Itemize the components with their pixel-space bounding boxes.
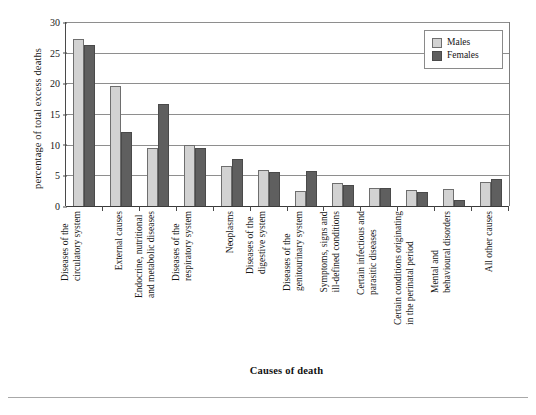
bar-females[interactable] — [343, 185, 354, 206]
x-category-label: Diseases of therespiratory system — [171, 211, 194, 281]
y-tick-label-10: 10 — [50, 139, 66, 150]
x-category-label: Neoplasms — [225, 211, 237, 253]
x-category-label: Diseases of thegenitourinary system — [282, 211, 305, 291]
x-category-label-line: digestive system — [257, 211, 269, 274]
y-tick-label-30: 30 — [50, 17, 66, 28]
bar-females[interactable] — [454, 200, 465, 206]
bar-females[interactable] — [158, 104, 169, 206]
x-category: Diseases of thecirculatory system — [65, 211, 102, 361]
bar-males[interactable] — [73, 39, 84, 206]
legend: Males Females — [424, 30, 503, 69]
bar-males[interactable] — [480, 182, 491, 206]
bar-group — [140, 22, 177, 206]
x-category: Diseases of thedigestive system — [250, 211, 287, 361]
bar-females[interactable] — [121, 132, 132, 206]
x-tick-mark — [508, 206, 509, 211]
bar-group — [103, 22, 140, 206]
x-category-label-line: Certain infectious and — [356, 211, 368, 295]
y-tick-label-25: 25 — [50, 47, 66, 58]
bar-males[interactable] — [443, 189, 454, 206]
chart-figure: percentage of total excess deaths 302520… — [0, 0, 536, 415]
x-category-label-line: circulatory system — [72, 211, 84, 281]
bar-females[interactable] — [195, 148, 206, 206]
x-category-label-line: Certain conditions originating — [393, 211, 405, 325]
x-category-label-line: respiratory system — [183, 211, 195, 281]
x-category-label: Diseases of thecirculatory system — [60, 211, 83, 281]
x-axis-category-labels: Diseases of thecirculatory systemExterna… — [65, 211, 508, 361]
x-category-label-line: Endocrine, nutritional — [134, 211, 146, 298]
x-category: Symptoms, signs andill-defined condition… — [323, 211, 360, 361]
x-category-label: Certain infectious andparasitic diseases — [356, 211, 379, 295]
bar-males[interactable] — [332, 183, 343, 206]
bar-group — [177, 22, 214, 206]
bar-females[interactable] — [232, 159, 243, 206]
x-category: Certain infectious andparasitic diseases — [360, 211, 397, 361]
legend-label-males: Males — [447, 36, 470, 49]
legend-item-males: Males — [432, 36, 496, 49]
x-category-label-line: in the perinatal period — [404, 211, 416, 325]
x-axis-title: Causes of death — [65, 365, 508, 376]
bottom-divider — [8, 397, 528, 398]
bar-group — [214, 22, 251, 206]
x-category-label-line: ill-defined conditions — [330, 211, 342, 293]
y-tick-label-0: 0 — [55, 201, 66, 212]
x-category-label-line: Diseases of the — [60, 211, 72, 281]
x-category: Diseases of thegenitourinary system — [287, 211, 324, 361]
legend-label-females: Females — [447, 49, 479, 62]
y-axis-title: percentage of total excess deaths — [32, 4, 43, 234]
bar-group — [288, 22, 325, 206]
x-category: Certain conditions originatingin the per… — [397, 211, 434, 361]
x-category-label: Symptoms, signs andill-defined condition… — [319, 211, 342, 293]
legend-swatch-males-icon — [432, 38, 442, 48]
x-category-label-line: and metabolic diseases — [146, 211, 158, 298]
legend-swatch-females-icon — [432, 51, 442, 61]
x-category-label-line: Neoplasms — [225, 211, 237, 253]
x-category-label-line: Diseases of the — [171, 211, 183, 281]
y-tick-label-20: 20 — [50, 78, 66, 89]
bar-group — [324, 22, 361, 206]
x-category-label-line: behavioural disorders — [441, 211, 453, 293]
bar-females[interactable] — [417, 192, 428, 206]
x-category-label-line: Diseases of the — [282, 211, 294, 291]
x-category-label-line: parasitic diseases — [367, 211, 379, 295]
x-category-label: Certain conditions originatingin the per… — [393, 211, 416, 325]
x-category-label-line: genitourinary system — [293, 211, 305, 291]
bar-females[interactable] — [380, 188, 391, 206]
bar-males[interactable] — [147, 148, 158, 206]
legend-item-females: Females — [432, 49, 496, 62]
bar-females[interactable] — [491, 179, 502, 206]
bar-group — [66, 22, 103, 206]
bar-males[interactable] — [221, 166, 232, 206]
bar-males[interactable] — [110, 86, 121, 206]
x-category-label: Diseases of thedigestive system — [245, 211, 268, 274]
bar-males[interactable] — [295, 191, 306, 206]
bar-females[interactable] — [306, 171, 317, 206]
bar-males[interactable] — [184, 145, 195, 206]
bar-females[interactable] — [269, 172, 280, 206]
x-category-label-line: Diseases of the — [245, 211, 257, 274]
x-category: Mental andbehavioural disorders — [434, 211, 471, 361]
y-tick-label-5: 5 — [55, 170, 66, 181]
bar-group — [251, 22, 288, 206]
x-category-label: Endocrine, nutritionaland metabolic dise… — [134, 211, 157, 298]
bar-group — [361, 22, 398, 206]
x-category-label: Mental andbehavioural disorders — [430, 211, 453, 293]
x-category-label-line: All other causes — [484, 211, 496, 272]
bar-males[interactable] — [369, 188, 380, 206]
x-category-label: All other causes — [484, 211, 496, 272]
bar-females[interactable] — [84, 45, 95, 206]
x-category-label-line: External causes — [115, 211, 127, 270]
x-category: Diseases of therespiratory system — [176, 211, 213, 361]
bar-males[interactable] — [258, 170, 269, 206]
x-category-label: External causes — [115, 211, 127, 270]
x-category-label-line: Mental and — [430, 211, 442, 293]
x-category-label-line: Symptoms, signs and — [319, 211, 331, 293]
x-category: All other causes — [471, 211, 508, 361]
bar-males[interactable] — [406, 190, 417, 206]
y-tick-label-15: 15 — [50, 109, 66, 120]
